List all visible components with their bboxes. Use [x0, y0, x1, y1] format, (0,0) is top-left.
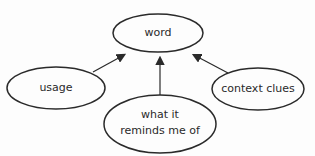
edge-context-to-word	[194, 55, 228, 73]
node-reminds-label-line1: what it	[105, 108, 215, 122]
node-usage-label: usage	[11, 81, 101, 95]
concept-map-diagram: word usage context clues what it reminds…	[0, 0, 315, 156]
node-reminds-label-line2: reminds me of	[105, 124, 215, 138]
node-context-label: context clues	[212, 82, 304, 96]
node-word-label: word	[113, 26, 203, 40]
edge-usage-to-word	[93, 55, 124, 72]
